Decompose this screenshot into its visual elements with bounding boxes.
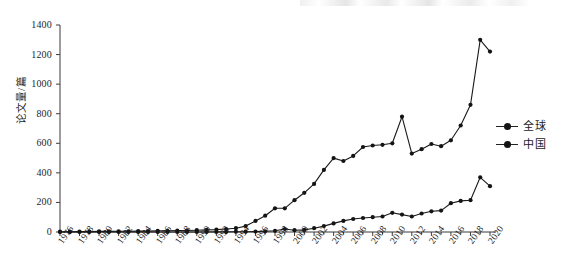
y-tick-label: 0 [8, 227, 52, 237]
y-tick-label: 200 [8, 197, 52, 207]
y-tick-label: 800 [8, 109, 52, 119]
y-tick-label: 1000 [8, 79, 52, 89]
series-global [58, 38, 492, 234]
legend-item-global[interactable]: 全球 [496, 118, 547, 134]
legend-label-global: 全球 [523, 121, 547, 132]
chart-figure: 论文量/篇 1400120010008006004002000 19761978… [0, 0, 564, 276]
chart-legend: 全球 中国 [496, 118, 547, 154]
legend-marker-global-icon [496, 121, 518, 131]
y-tick-label: 1400 [8, 20, 52, 30]
legend-label-china: 中国 [523, 139, 547, 150]
legend-item-china[interactable]: 中国 [496, 136, 547, 152]
y-tick-label: 600 [8, 138, 52, 148]
y-tick-label: 400 [8, 168, 52, 178]
legend-marker-china-icon [496, 139, 518, 149]
y-tick-label: 1200 [8, 50, 52, 60]
series-china [58, 175, 492, 234]
